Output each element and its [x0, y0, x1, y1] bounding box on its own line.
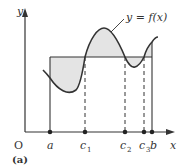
- point-b: [150, 130, 155, 135]
- label-c2-sub: 2: [127, 146, 131, 154]
- point-c2: [123, 130, 128, 135]
- label-b: b: [150, 139, 157, 152]
- shaded-region: [50, 28, 152, 92]
- figure-caption: (a): [12, 154, 28, 165]
- y-axis-label: y: [16, 5, 24, 18]
- curve-label-leader: [111, 19, 124, 32]
- mean-value-diagram: y = f(x) y O a c 1 c 2 c 3 b x (a): [0, 0, 187, 166]
- x-axis-label: x: [170, 139, 177, 152]
- label-c1: c: [80, 139, 86, 152]
- point-c3: [142, 130, 147, 135]
- label-a: a: [47, 139, 54, 152]
- origin-label: O: [14, 139, 23, 152]
- point-a: [48, 130, 53, 135]
- point-c1: [83, 130, 88, 135]
- label-c1-sub: 1: [87, 146, 91, 154]
- diagram-canvas: y = f(x) y O a c 1 c 2 c 3 b x (a): [0, 0, 187, 166]
- label-c2: c: [120, 139, 126, 152]
- label-c3: c: [139, 139, 145, 152]
- x-axis-arrow-icon: [166, 129, 175, 135]
- curve-label: y = f(x): [125, 11, 167, 24]
